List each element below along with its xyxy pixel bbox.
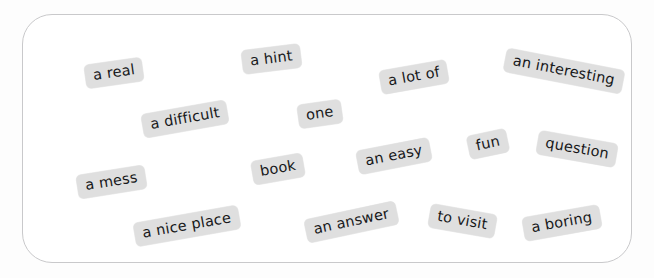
word-chip[interactable]: a boring: [521, 204, 602, 241]
word-chip[interactable]: a mess: [76, 165, 148, 200]
word-chip[interactable]: a difficult: [141, 100, 230, 139]
word-chip[interactable]: fun: [466, 128, 510, 160]
screenshot-stage: a reala hinta lot ofan interestinga diff…: [0, 0, 654, 278]
word-chip[interactable]: an answer: [303, 201, 399, 244]
word-chip[interactable]: a nice place: [133, 205, 241, 247]
word-chip[interactable]: book: [250, 153, 306, 186]
word-bank-panel: a reala hinta lot ofan interestinga diff…: [22, 14, 632, 263]
word-chip[interactable]: one: [297, 99, 344, 129]
word-chip[interactable]: to visit: [427, 203, 497, 238]
word-chip[interactable]: a hint: [241, 44, 302, 75]
word-chip[interactable]: question: [536, 130, 619, 168]
word-chip[interactable]: a lot of: [378, 59, 449, 95]
word-chip[interactable]: an easy: [355, 137, 432, 175]
word-chip[interactable]: a real: [84, 57, 145, 89]
word-chip[interactable]: an interesting: [503, 48, 625, 95]
